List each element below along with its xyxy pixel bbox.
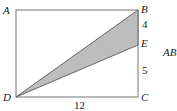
length-be: 4 (142, 18, 148, 30)
label-b: B (141, 3, 148, 15)
length-ec: 5 (142, 64, 148, 76)
label-d: D (2, 91, 11, 103)
length-dc: 12 (74, 99, 85, 111)
label-e: E (140, 37, 148, 49)
geometry-diagram: A B 4 E AB 5 D C 12 (0, 0, 177, 111)
shaded-triangle-dbe (16, 10, 138, 97)
label-c: C (141, 91, 149, 103)
side-text-ab: AB (162, 46, 177, 58)
label-a: A (2, 4, 10, 16)
